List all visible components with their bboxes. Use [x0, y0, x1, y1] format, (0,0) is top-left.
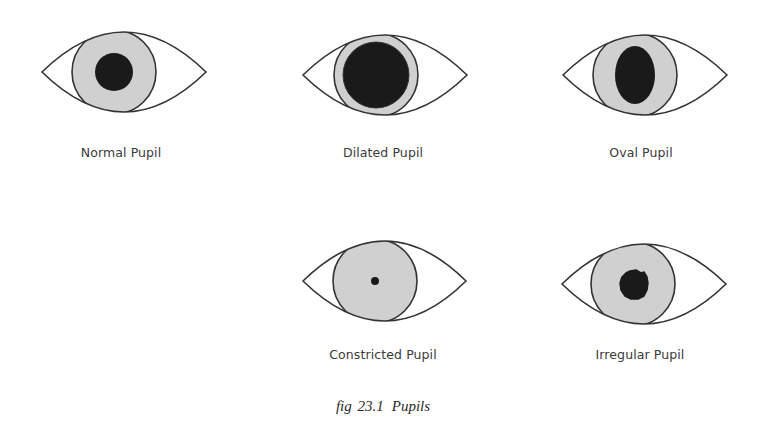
figure-title: Pupils	[392, 398, 430, 414]
eye-dilated-pupil	[303, 33, 467, 117]
pupil-icon	[371, 277, 379, 285]
eye-irregular-pupil	[562, 242, 726, 326]
pupil-icon	[343, 42, 409, 108]
label-irregular-pupil: Irregular Pupil	[540, 347, 740, 362]
eye-diagrams	[0, 0, 766, 432]
label-normal-pupil: Normal Pupil	[21, 145, 221, 160]
pupils-figure: Normal Pupil Dilated Pupil Oval Pupil Co…	[0, 0, 766, 432]
pupil-icon	[95, 53, 133, 91]
label-constricted-pupil: Constricted Pupil	[283, 347, 483, 362]
pupil-icon	[615, 46, 655, 104]
eye-normal-pupil	[42, 30, 206, 114]
pupil-icon	[620, 270, 648, 299]
label-dilated-pupil: Dilated Pupil	[283, 145, 483, 160]
label-oval-pupil: Oval Pupil	[541, 145, 741, 160]
eye-constricted-pupil	[303, 239, 466, 323]
figure-caption: fig 23.1Pupils	[0, 398, 766, 415]
eye-oval-pupil	[563, 33, 727, 117]
figure-number: fig 23.1	[336, 398, 384, 414]
